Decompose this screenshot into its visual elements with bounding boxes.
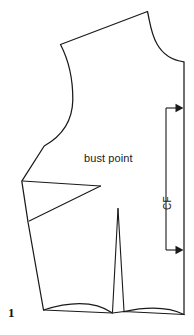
center-front-label: CF (162, 196, 173, 210)
waist-dart-left-leg (113, 209, 119, 313)
grainline-bottom-arrowhead-icon (176, 246, 184, 254)
figure-number-label: 1 (8, 305, 15, 320)
pattern-drawing: bust point CF 1 (0, 0, 194, 335)
bust-point-label: bust point (84, 152, 133, 164)
bust-dart-upper-leg (23, 181, 101, 186)
pattern-figure: bust point CF 1 (0, 0, 194, 335)
waist-dart-right-leg (118, 209, 124, 312)
grainline-top-arrowhead-icon (176, 104, 184, 112)
bust-dart-lower-leg (29, 186, 100, 221)
